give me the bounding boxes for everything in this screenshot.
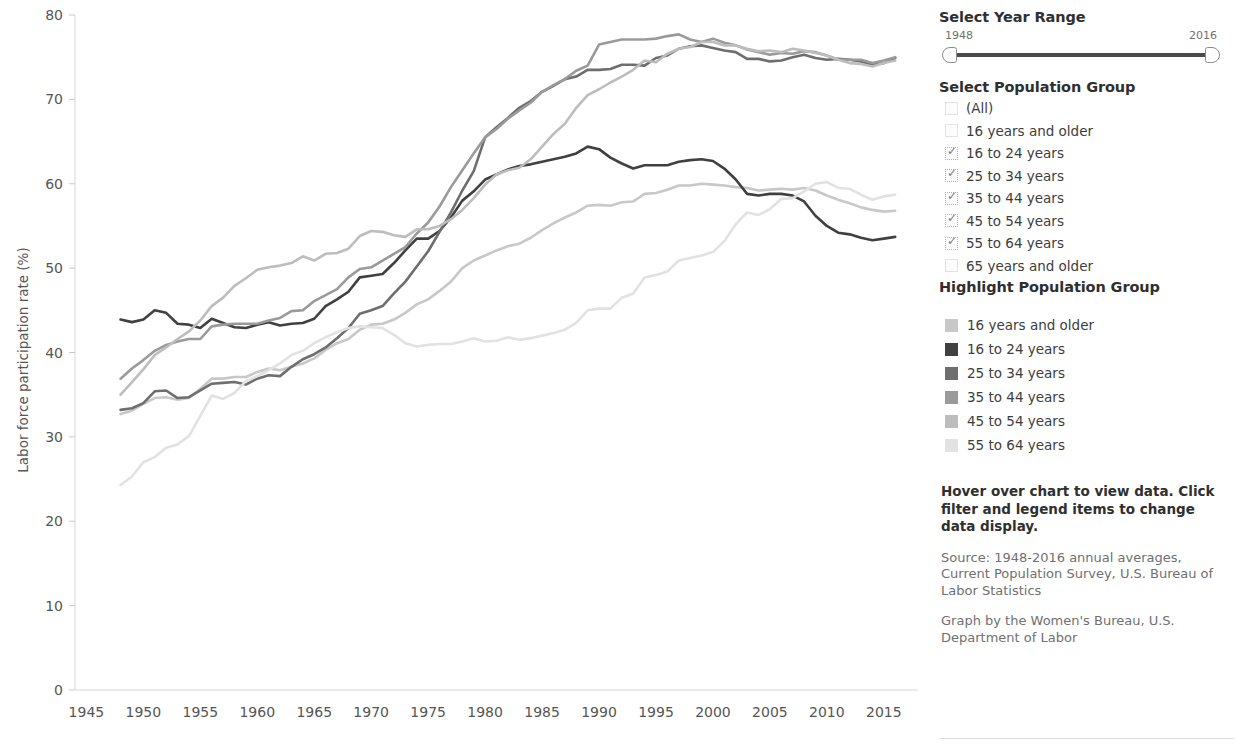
credit-text: Graph by the Women's Bureau, U.S. Depart… xyxy=(941,613,1226,646)
checkbox-unchecked-icon[interactable] xyxy=(945,124,958,137)
y-tick-label: 20 xyxy=(45,513,63,529)
filter-item-label: 16 years and older xyxy=(966,123,1093,139)
legend-color-swatch[interactable] xyxy=(945,343,958,356)
series-line-16-to-24-years[interactable] xyxy=(121,147,896,328)
filter-item[interactable]: ✓35 to 44 years xyxy=(939,187,1226,210)
filter-item-label: 25 to 34 years xyxy=(966,168,1064,184)
x-tick-label: 2000 xyxy=(695,704,731,720)
y-tick-label: 70 xyxy=(45,91,63,107)
legend-item[interactable]: 16 years and older xyxy=(939,313,1226,337)
x-tick-label: 1955 xyxy=(182,704,218,720)
x-tick-label: 1995 xyxy=(638,704,674,720)
check-icon: ✓ xyxy=(947,145,957,158)
legend-item[interactable]: 16 to 24 years xyxy=(939,337,1226,361)
filter-item-label: 55 to 64 years xyxy=(966,235,1064,251)
x-tick-label: 2005 xyxy=(752,704,788,720)
filter-item[interactable]: ✓16 to 24 years xyxy=(939,142,1226,165)
y-tick-label: 50 xyxy=(45,260,63,276)
year-range-max-label: 2016 xyxy=(1189,29,1217,42)
y-axis-title: Labor force participation rate (%) xyxy=(15,247,31,472)
check-icon: ✓ xyxy=(947,190,957,203)
legend-item-label: 45 to 54 years xyxy=(967,413,1065,429)
check-icon: ✓ xyxy=(947,235,957,248)
x-tick-label: 1980 xyxy=(467,704,503,720)
highlight-block: Highlight Population Group 16 years and … xyxy=(939,279,1226,457)
legend-item[interactable]: 45 to 54 years xyxy=(939,409,1226,433)
legend-item[interactable]: 35 to 44 years xyxy=(939,385,1226,409)
highlight-legend-list[interactable]: 16 years and older16 to 24 years25 to 34… xyxy=(939,313,1226,457)
legend-color-swatch[interactable] xyxy=(945,439,958,452)
x-tick-label: 1950 xyxy=(126,704,162,720)
notes-block: Hover over chart to view data. Click fil… xyxy=(939,483,1226,646)
filter-item[interactable]: 65 years and older xyxy=(939,255,1226,278)
legend-color-swatch[interactable] xyxy=(945,367,958,380)
legend-item[interactable]: 55 to 64 years xyxy=(939,433,1226,457)
y-tick-label: 10 xyxy=(45,598,63,614)
x-tick-label: 1965 xyxy=(296,704,332,720)
slider-handle-max[interactable] xyxy=(1205,47,1220,63)
year-range-block: Select Year Range 1948 2016 xyxy=(939,9,1226,65)
x-tick-label: 1990 xyxy=(581,704,617,720)
checkbox-checked-icon[interactable]: ✓ xyxy=(945,192,958,205)
x-tick-label: 2015 xyxy=(866,704,902,720)
population-filter-list[interactable]: (All)16 years and older✓16 to 24 years✓2… xyxy=(939,97,1226,277)
dashboard-root: 0102030405060708019451950195519601965197… xyxy=(0,0,1236,745)
filter-item-label: 35 to 44 years xyxy=(966,190,1064,206)
year-range-labels: 1948 2016 xyxy=(939,29,1226,44)
source-text: Source: 1948-2016 annual averages, Curre… xyxy=(941,550,1226,600)
y-tick-label: 40 xyxy=(45,345,63,361)
year-range-slider[interactable] xyxy=(939,45,1226,65)
chart-pane[interactable]: 0102030405060708019451950195519601965197… xyxy=(0,0,935,745)
checkbox-unchecked-icon[interactable] xyxy=(945,259,958,272)
checkbox-unchecked-icon[interactable] xyxy=(945,102,958,115)
y-tick-label: 60 xyxy=(45,176,63,192)
filter-item[interactable]: (All) xyxy=(939,97,1226,120)
series-line-16-years-and-older[interactable] xyxy=(121,184,896,414)
filter-item[interactable]: ✓45 to 54 years xyxy=(939,210,1226,233)
filter-item-label: 65 years and older xyxy=(966,258,1093,274)
filter-item[interactable]: ✓55 to 64 years xyxy=(939,232,1226,255)
checkbox-checked-icon[interactable]: ✓ xyxy=(945,237,958,250)
series-line-45-to-54-years[interactable] xyxy=(121,42,896,395)
series-line-25-to-34-years[interactable] xyxy=(121,45,896,410)
x-tick-label: 2010 xyxy=(809,704,845,720)
filter-item[interactable]: ✓25 to 34 years xyxy=(939,165,1226,188)
legend-item[interactable]: 25 to 34 years xyxy=(939,361,1226,385)
controls-sidebar: Select Year Range 1948 2016 Select Popul… xyxy=(935,0,1236,745)
year-range-min-label: 1948 xyxy=(945,29,973,42)
legend-item-label: 16 years and older xyxy=(967,317,1094,333)
check-icon: ✓ xyxy=(947,167,957,180)
legend-color-swatch[interactable] xyxy=(945,391,958,404)
legend-item-label: 55 to 64 years xyxy=(967,437,1065,453)
checkbox-checked-icon[interactable]: ✓ xyxy=(945,147,958,160)
line-chart[interactable]: 0102030405060708019451950195519601965197… xyxy=(0,0,935,745)
y-tick-label: 0 xyxy=(54,682,63,698)
instruction-text: Hover over chart to view data. Click fil… xyxy=(941,483,1226,536)
year-range-heading: Select Year Range xyxy=(939,9,1226,25)
check-icon: ✓ xyxy=(947,212,957,225)
slider-track[interactable] xyxy=(953,53,1209,57)
y-tick-label: 30 xyxy=(45,429,63,445)
filter-item-label: 16 to 24 years xyxy=(966,145,1064,161)
filter-item-label: (All) xyxy=(966,100,993,116)
filter-item-label: 45 to 54 years xyxy=(966,213,1064,229)
chart-axes: 0102030405060708019451950195519601965197… xyxy=(45,7,918,720)
chart-series[interactable] xyxy=(121,34,896,485)
y-tick-label: 80 xyxy=(45,7,63,23)
checkbox-checked-icon[interactable]: ✓ xyxy=(945,214,958,227)
x-tick-label: 1975 xyxy=(410,704,446,720)
legend-color-swatch[interactable] xyxy=(945,415,958,428)
population-filter-heading: Select Population Group xyxy=(939,79,1226,95)
bottom-divider xyxy=(939,738,1234,739)
legend-item-label: 25 to 34 years xyxy=(967,365,1065,381)
highlight-heading: Highlight Population Group xyxy=(939,279,1226,295)
slider-handle-min[interactable] xyxy=(942,47,957,63)
x-tick-label: 1985 xyxy=(524,704,560,720)
legend-color-swatch[interactable] xyxy=(945,319,958,332)
filter-item[interactable]: 16 years and older xyxy=(939,120,1226,143)
checkbox-checked-icon[interactable]: ✓ xyxy=(945,169,958,182)
series-line-55-to-64-years[interactable] xyxy=(121,182,896,485)
x-tick-label: 1960 xyxy=(239,704,275,720)
legend-item-label: 16 to 24 years xyxy=(967,341,1065,357)
legend-item-label: 35 to 44 years xyxy=(967,389,1065,405)
